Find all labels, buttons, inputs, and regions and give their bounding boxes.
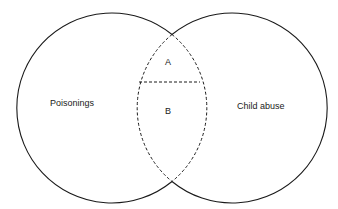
region-b-label: B	[165, 106, 171, 116]
intersection-lens	[137, 35, 207, 182]
region-a-label: A	[165, 57, 171, 67]
venn-diagram: Poisonings Child abuse A B	[0, 0, 338, 209]
poisonings-circle	[17, 13, 172, 203]
poisonings-label: Poisonings	[50, 98, 95, 108]
child-abuse-label: Child abuse	[237, 101, 285, 111]
